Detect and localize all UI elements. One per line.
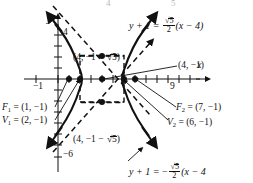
asymptote-negative-sign: − bbox=[162, 166, 168, 177]
co-vertex-upper-label: (4, −1 + √5) bbox=[73, 53, 120, 63]
vertex-1-value: = (2, −1) bbox=[11, 115, 47, 125]
x-tick-label-9: 9 bbox=[170, 82, 175, 92]
asymptote-negative-equation: y + 1 = −√52(x − 4 bbox=[129, 163, 206, 181]
point-V2 bbox=[121, 76, 127, 82]
focus-2-label: F2 = (7, −1) bbox=[176, 103, 221, 113]
point-b-lower bbox=[99, 99, 105, 105]
asymptote-negative-denominator: 2 bbox=[169, 172, 181, 180]
y-tick-label-minus6: −6 bbox=[63, 150, 73, 160]
focus-2-value: = (7, −1) bbox=[185, 102, 221, 112]
asymptote-negative-fraction: √52 bbox=[169, 163, 181, 181]
asymptote-positive-lhs: y + 1 = bbox=[129, 20, 162, 31]
co-vertex-upper-prefix: (4, −1 + bbox=[73, 52, 106, 62]
co-vertex-lower-radical: √5 bbox=[106, 135, 117, 145]
center-label: (4, −1) bbox=[178, 61, 204, 71]
x-tick-label-minus1: −1 bbox=[33, 82, 43, 92]
co-vertex-upper-suffix: ) bbox=[117, 52, 120, 62]
vertex-2-value: = (6, −1) bbox=[176, 117, 212, 127]
hyperbola-figure bbox=[0, 0, 253, 183]
co-vertex-upper-radical: √5 bbox=[106, 53, 117, 63]
point-V1 bbox=[77, 76, 83, 82]
focus-1-value: = (1, −1) bbox=[11, 102, 47, 112]
co-vertex-lower-label: (4, −1 − √5) bbox=[73, 135, 120, 145]
co-vertex-lower-prefix: (4, −1 − bbox=[73, 134, 106, 144]
vertex-2-label: V2 = (6, −1) bbox=[167, 118, 212, 128]
y-tick-label-4: 4 bbox=[63, 28, 68, 38]
focus-1-label: F1 = (1, −1) bbox=[2, 103, 47, 113]
y-axis-label: y bbox=[47, 14, 51, 24]
ghost-page-number-left: 4 bbox=[106, 0, 111, 8]
asymptote-positive-equation: y + 1 = √52(x − 4) bbox=[129, 17, 203, 35]
ghost-page-number-right: 5 bbox=[171, 0, 176, 8]
point-F2 bbox=[132, 76, 138, 82]
asymptote-positive-fraction: √52 bbox=[163, 17, 175, 35]
asymptote-positive-rhs: (x − 4) bbox=[176, 20, 204, 31]
asymptote-negative-rhs: (x − 4 bbox=[181, 166, 206, 177]
asymptote-negative-lhs: y + 1 = bbox=[129, 166, 162, 177]
vertex-1-label: V1 = (2, −1) bbox=[2, 116, 47, 126]
asymptote-positive-denominator: 2 bbox=[163, 26, 175, 34]
co-vertex-lower-suffix: ) bbox=[117, 134, 120, 144]
